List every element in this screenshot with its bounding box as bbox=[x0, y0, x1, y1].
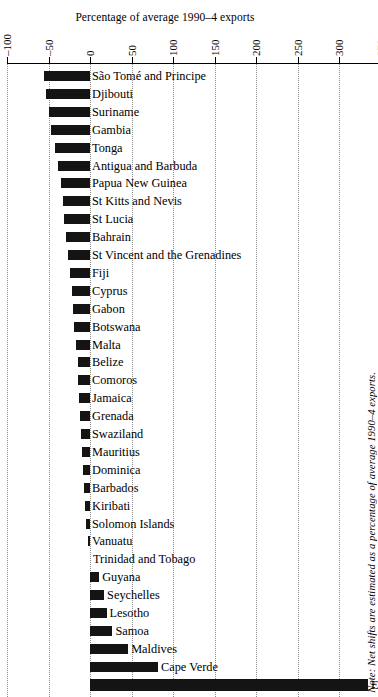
axis-tick-label: 250 bbox=[292, 28, 304, 56]
bar bbox=[68, 250, 90, 260]
bar bbox=[88, 536, 90, 546]
bar-row: Antigua and Barbuda bbox=[0, 157, 348, 175]
bar-row: Fiji bbox=[0, 264, 348, 282]
chart-title: Percentage of average 1990–4 exports bbox=[0, 11, 330, 23]
axis-tick-label: 300 bbox=[333, 28, 345, 56]
bar-row: Gambia bbox=[0, 121, 348, 139]
bar bbox=[78, 375, 90, 385]
bar bbox=[90, 608, 107, 618]
bar bbox=[85, 501, 90, 511]
bar-row: Vanuatu bbox=[0, 532, 348, 550]
axis-tick-label: 0 bbox=[84, 28, 96, 56]
bar-label: St Vincent and the Grenadines bbox=[92, 245, 241, 265]
bar bbox=[72, 286, 90, 296]
bar-row: Djibouti bbox=[0, 85, 348, 103]
bar-row: Belize bbox=[0, 353, 348, 371]
x-axis-line bbox=[7, 63, 378, 64]
bar-row: Equatorial Guinea bbox=[0, 676, 348, 694]
bar bbox=[86, 519, 90, 529]
bar-row: Cyprus bbox=[0, 282, 348, 300]
bar-row: Cape Verde bbox=[0, 658, 348, 676]
bar bbox=[76, 340, 90, 350]
bar bbox=[55, 143, 90, 153]
axis-tick-label: 200 bbox=[250, 28, 262, 56]
bar-row: Solomon Islands bbox=[0, 515, 348, 533]
bar bbox=[74, 322, 90, 332]
axis-tick-label: –100 bbox=[1, 28, 13, 56]
bar-row: Jamaica bbox=[0, 389, 348, 407]
bar-row: Samoa bbox=[0, 622, 348, 640]
bar bbox=[70, 268, 90, 278]
bar bbox=[80, 411, 90, 421]
bar bbox=[46, 89, 90, 99]
bar bbox=[90, 662, 158, 672]
bar bbox=[79, 393, 90, 403]
bar bbox=[61, 178, 90, 188]
bar bbox=[78, 357, 90, 367]
bar-row: St Lucia bbox=[0, 210, 348, 228]
bar bbox=[90, 590, 104, 600]
bar bbox=[66, 232, 90, 242]
bar bbox=[90, 572, 99, 582]
bar-row: Botswana bbox=[0, 318, 348, 336]
bar bbox=[90, 644, 128, 654]
bar bbox=[90, 626, 112, 636]
axis-tick-label: 150 bbox=[209, 28, 221, 56]
chart-root: Percentage of average 1990–4 exports Not… bbox=[0, 0, 378, 697]
bar bbox=[90, 679, 368, 691]
bar bbox=[83, 465, 90, 475]
bar-row: Swaziland bbox=[0, 425, 348, 443]
bar-row: Guyana bbox=[0, 568, 348, 586]
bar bbox=[81, 429, 90, 439]
bar bbox=[64, 214, 90, 224]
bar-row: St Vincent and the Grenadines bbox=[0, 246, 348, 264]
bar-row: Papua New Guinea bbox=[0, 174, 348, 192]
bar bbox=[51, 125, 90, 135]
bar bbox=[44, 71, 90, 81]
bar-row: Dominica bbox=[0, 461, 348, 479]
bar-row: Suriname bbox=[0, 103, 348, 121]
bar-label: Cape Verde bbox=[161, 657, 218, 677]
axis-tick-label: 100 bbox=[167, 28, 179, 56]
bar-row: Comoros bbox=[0, 371, 348, 389]
bar bbox=[82, 447, 90, 457]
bar-row: Tonga bbox=[0, 139, 348, 157]
bar-row: Bahrain bbox=[0, 228, 348, 246]
bar-row: São Tomé and Principe bbox=[0, 67, 348, 85]
bar-label: Equatorial Guinea bbox=[371, 675, 378, 695]
bar-row: Mauritius bbox=[0, 443, 348, 461]
axis-tick-label: 350 bbox=[375, 28, 378, 56]
bar-row: Maldives bbox=[0, 640, 348, 658]
bar bbox=[58, 161, 90, 171]
axis-tick-label: –50 bbox=[43, 28, 55, 56]
bar-row: Kiribati bbox=[0, 497, 348, 515]
bar bbox=[84, 483, 90, 493]
bar bbox=[73, 304, 90, 314]
bar-row: Lesotho bbox=[0, 604, 348, 622]
bar-row: Grenada bbox=[0, 407, 348, 425]
bar-row: St Kitts and Nevis bbox=[0, 192, 348, 210]
bar-row: Trinidad and Tobago bbox=[0, 550, 348, 568]
bar-row: Barbados bbox=[0, 479, 348, 497]
bar bbox=[49, 107, 91, 117]
chart-note: Note: Net shifts are estimated as a perc… bbox=[366, 372, 377, 693]
bar-row: Malta bbox=[0, 336, 348, 354]
axis-tick-label: 50 bbox=[126, 28, 138, 56]
bar-row: Gabon bbox=[0, 300, 348, 318]
bar-row: Seychelles bbox=[0, 586, 348, 604]
bar bbox=[63, 196, 90, 206]
